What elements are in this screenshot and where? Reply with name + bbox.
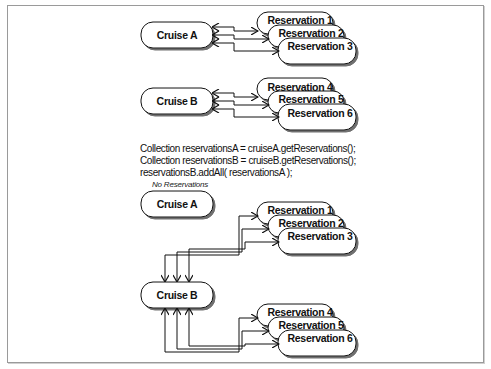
after-cruise-b-group: Reservation 1 Reservation 2 Reservation … [141,202,356,356]
code-line: Collection reservationsA = cruiseA.getRe… [140,143,356,155]
reservation-label: Reservation 5 [279,319,344,331]
reservation-label: Reservation 6 [288,107,353,119]
cruise-b-label: Cruise B [157,95,198,107]
before-cruise-a-group: Cruise A Reservation 1 Reservation 2 Res… [141,12,356,64]
reservation-label: Reservation 5 [279,93,344,105]
no-reservations-note: No Reservations [152,180,208,189]
bidirectional-arrows [165,216,279,281]
cruise-a-label: Cruise A [157,198,198,210]
reservation-label: Reservation 3 [288,40,353,52]
code-snippet: Collection reservationsA = cruiseA.getRe… [140,143,356,179]
reservation-label: Reservation 2 [279,27,344,39]
before-cruise-b-group: Cruise B Reservation 4 Reservation 5 Res… [141,78,356,130]
reservation-label: Reservation 3 [288,230,353,242]
reservation-label: Reservation 1 [268,14,333,26]
cruise-b-label: Cruise B [157,289,198,301]
code-line: Collection reservationsB = cruiseB.getRe… [140,155,356,167]
code-line: reservationsB.addAll( reservationsA ); [140,167,356,179]
after-cruise-a-group: No Reservations Cruise A [141,180,213,217]
cruise-a-label: Cruise A [157,29,198,41]
reservation-label: Reservation 6 [288,332,353,344]
diagram-canvas: Cruise A Reservation 1 Reservation 2 Res… [0,0,491,369]
reservation-label: Reservation 4 [268,306,333,318]
reservation-label: Reservation 1 [268,204,333,216]
reservation-label: Reservation 2 [279,217,344,229]
